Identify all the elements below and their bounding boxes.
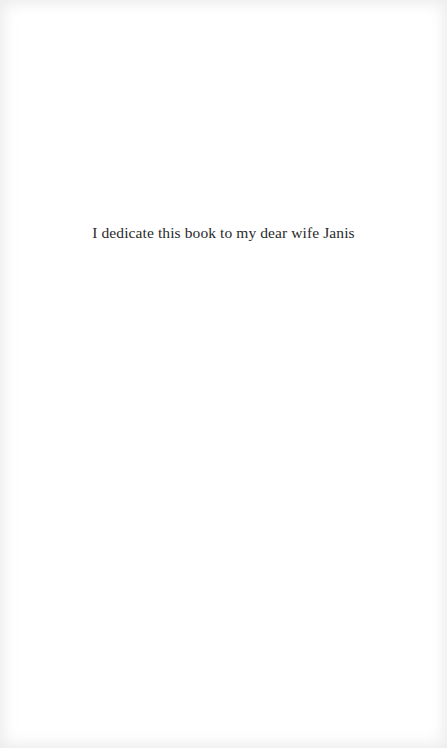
dedication-text: I dedicate this book to my dear wife Jan… xyxy=(0,223,447,243)
book-page: I dedicate this book to my dear wife Jan… xyxy=(0,0,447,748)
